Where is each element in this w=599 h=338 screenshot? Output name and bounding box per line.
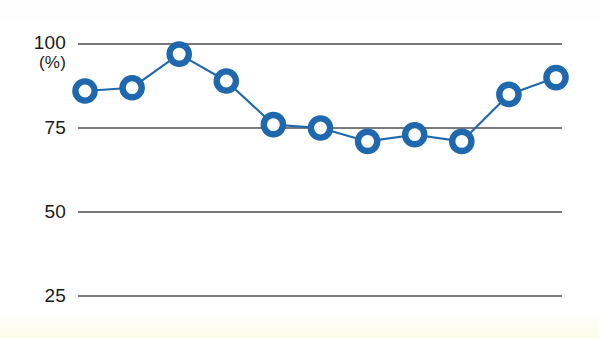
data-point-markers — [75, 45, 565, 151]
data-point-9 — [452, 132, 471, 151]
data-point-6 — [311, 118, 330, 137]
data-point-5 — [264, 115, 283, 134]
data-point-2 — [123, 78, 142, 97]
plot-area — [0, 0, 599, 338]
line-chart: 100 (%) 75 50 25 — [0, 0, 599, 338]
data-point-7 — [358, 132, 377, 151]
data-point-10 — [499, 85, 518, 104]
data-point-3 — [170, 45, 189, 64]
data-point-8 — [405, 125, 424, 144]
data-point-11 — [546, 68, 565, 87]
gridlines — [78, 44, 562, 296]
data-point-4 — [217, 71, 236, 90]
data-point-1 — [75, 81, 94, 100]
